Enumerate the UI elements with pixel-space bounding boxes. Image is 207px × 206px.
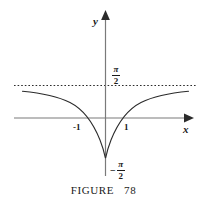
fraction-numerator-pi: π xyxy=(117,160,124,170)
x-tick-label-neg-one: -1 xyxy=(73,123,81,132)
figure-78-container: y x -1 1 π 2 − π 2 FIGURE78 xyxy=(0,0,207,206)
fraction-numerator-pi: π xyxy=(113,65,120,75)
x-axis-arrow-icon xyxy=(184,114,194,123)
figure-caption-word: FIGURE xyxy=(71,184,114,196)
figure-caption: FIGURE78 xyxy=(0,184,207,196)
y-value-label-pi-over-2: π 2 xyxy=(111,62,120,86)
x-axis-label: x xyxy=(183,124,189,135)
y-value-label-neg-pi-over-2: − π 2 xyxy=(110,160,125,181)
x-tick-label-pos-one: 1 xyxy=(124,123,129,132)
fraction-body: π 2 xyxy=(112,65,120,86)
plot-canvas xyxy=(0,0,207,206)
curve-left-branch xyxy=(23,91,106,157)
fraction-denominator-two: 2 xyxy=(113,76,120,86)
fraction-body: π 2 xyxy=(117,160,125,181)
fraction-denominator-two: 2 xyxy=(117,171,124,181)
y-axis-label: y xyxy=(93,16,98,27)
fraction-neg-pi-over-2: − π 2 xyxy=(110,160,125,181)
fraction-pi-over-2: π 2 xyxy=(111,65,120,86)
figure-caption-number: 78 xyxy=(124,184,136,196)
fraction-sign-negative: − xyxy=(110,166,116,176)
curve-right-branch xyxy=(106,91,189,157)
y-axis-arrow-icon xyxy=(101,10,110,20)
